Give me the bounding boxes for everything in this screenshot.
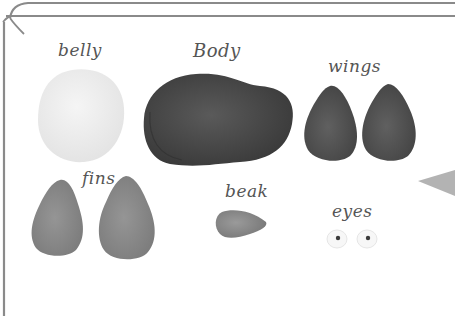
beak-piece [216, 210, 267, 238]
belly-piece [38, 69, 124, 162]
fin-right [99, 176, 155, 259]
clay-pieces [0, 0, 455, 316]
body-piece [144, 74, 293, 166]
eye-left [327, 230, 347, 248]
fin-left [32, 180, 83, 256]
wing-right [362, 84, 416, 161]
wing-left [304, 86, 357, 161]
eye-right [357, 230, 377, 248]
